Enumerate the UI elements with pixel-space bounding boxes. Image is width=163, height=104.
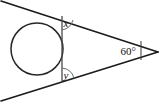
circle-shape (11, 23, 63, 75)
angle-label-y: y (63, 69, 69, 81)
geometry-figure: x y 60° (0, 0, 163, 104)
lower-tangent-line (1, 52, 158, 101)
angle-label-x: x (63, 17, 69, 29)
angle-label-apex: 60° (121, 45, 136, 57)
geometry-canvas: x y 60° (0, 0, 163, 104)
